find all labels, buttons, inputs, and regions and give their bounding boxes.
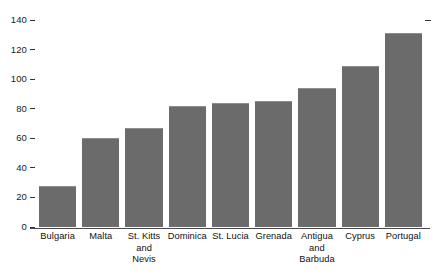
y-axis-tick-label: 0 — [22, 221, 27, 233]
bar-slot — [125, 0, 162, 227]
bar-slot — [212, 0, 249, 227]
y-axis-tick-mark — [30, 108, 35, 109]
bar — [298, 88, 335, 227]
y-axis-tick: 100 — [11, 73, 36, 85]
y-axis-tick-mark — [30, 49, 35, 50]
x-axis-label: Portugal — [378, 231, 429, 243]
y-axis-tick-mark — [30, 20, 35, 21]
bar — [255, 101, 292, 227]
y-axis: 020406080100120140 — [0, 0, 36, 276]
bar — [169, 106, 206, 227]
x-axis-line — [30, 228, 430, 229]
bar — [125, 128, 162, 227]
right-axis-tick-140 — [425, 20, 431, 21]
y-axis-tick-label: 20 — [16, 191, 27, 203]
x-axis-label-line: and — [118, 243, 169, 255]
bar-chart: 020406080100120140 BulgariaMaltaSt. Kitt… — [0, 0, 438, 276]
x-axis-label-line: Portugal — [378, 231, 429, 243]
bar-slot — [385, 0, 422, 227]
bar-slot — [169, 0, 206, 227]
bar-series — [36, 0, 425, 227]
bar — [212, 103, 249, 227]
x-axis-label-line: and — [291, 243, 342, 255]
bar — [385, 33, 422, 227]
bar-slot — [298, 0, 335, 227]
x-axis-labels: BulgariaMaltaSt. KittsandNevisDominicaSt… — [36, 231, 425, 276]
y-axis-tick-label: 100 — [11, 73, 27, 85]
y-axis-tick-mark — [30, 138, 35, 139]
y-axis-tick-label: 80 — [16, 103, 27, 115]
y-axis-tick: 80 — [16, 103, 36, 115]
bar — [82, 138, 119, 227]
bar-slot — [255, 0, 292, 227]
bar-slot — [82, 0, 119, 227]
x-axis-label-line: Barbuda — [291, 254, 342, 266]
y-axis-tick-label: 40 — [16, 162, 27, 174]
y-axis-tick-label: 140 — [11, 14, 27, 26]
y-axis-tick: 120 — [11, 44, 36, 56]
y-axis-tick: 40 — [16, 162, 36, 174]
y-axis-tick-label: 60 — [16, 132, 27, 144]
bar — [39, 186, 76, 227]
y-axis-tick-mark — [30, 79, 35, 80]
y-axis-tick-label: 120 — [11, 44, 27, 56]
y-axis-tick-mark — [30, 167, 35, 168]
y-axis-tick: 60 — [16, 132, 36, 144]
x-axis-label-line: Nevis — [118, 254, 169, 266]
y-axis-tick: 140 — [11, 14, 36, 26]
bar — [342, 66, 379, 227]
y-axis-tick: 20 — [16, 191, 36, 203]
y-axis-tick-mark — [30, 197, 35, 198]
bar-slot — [342, 0, 379, 227]
bar-slot — [39, 0, 76, 227]
